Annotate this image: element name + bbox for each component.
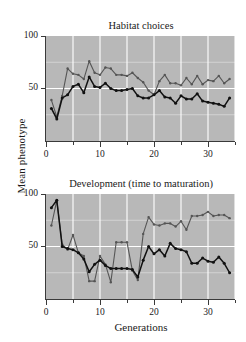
x-tick-30-bottom	[208, 300, 209, 305]
x-tick-20-bottom	[154, 300, 155, 305]
plot-area-top	[46, 36, 235, 141]
x-tick-35-top	[235, 142, 236, 145]
x-tick-label-10-bottom: 10	[90, 307, 110, 317]
x-tick-20-top	[154, 142, 155, 147]
x-tick-label-20-top: 20	[144, 149, 164, 159]
chart-canvas-top	[46, 36, 235, 141]
x-tick-label-30-top: 30	[198, 149, 218, 159]
x-tick-25-top	[181, 142, 182, 145]
y-axis-line-bottom	[45, 194, 46, 300]
x-tick-0-top	[46, 142, 47, 147]
y-tick-100-bottom	[41, 194, 46, 195]
y-tick-100-top	[41, 36, 46, 37]
x-tick-10-bottom	[100, 300, 101, 305]
x-tick-25-bottom	[181, 300, 182, 303]
x-tick-label-0-top: 0	[36, 149, 56, 159]
y-tick-label-100-top: 100	[8, 30, 38, 40]
x-tick-label-30-bottom: 30	[198, 307, 218, 317]
panel-development: Development (time to maturation) 100 50 …	[0, 171, 246, 342]
plot-area-bottom	[46, 194, 235, 299]
figure: Mean phenotype Habitat choices 100 50 0 …	[0, 0, 246, 342]
x-tick-15-top	[127, 142, 128, 145]
x-tick-5-bottom	[73, 300, 74, 303]
chart-title-bottom: Development (time to maturation)	[46, 178, 236, 189]
x-tick-15-bottom	[127, 300, 128, 303]
y-tick-label-100-bottom: 100	[8, 188, 38, 198]
x-tick-label-0-bottom: 0	[36, 307, 56, 317]
x-tick-30-top	[208, 142, 209, 147]
x-tick-5-top	[73, 142, 74, 145]
x-tick-35-bottom	[235, 300, 236, 303]
x-tick-label-10-top: 10	[90, 149, 110, 159]
y-tick-50-top	[41, 88, 46, 89]
x-tick-label-20-bottom: 20	[144, 307, 164, 317]
y-tick-label-50-bottom: 50	[8, 240, 38, 250]
panel-habitat-choices: Habitat choices 100 50 0 10 20 30	[0, 0, 246, 171]
chart-canvas-bottom	[46, 194, 235, 299]
x-tick-10-top	[100, 142, 101, 147]
y-axis-line-top	[45, 36, 46, 142]
x-tick-0-bottom	[46, 300, 47, 305]
y-tick-label-50-top: 50	[8, 82, 38, 92]
x-axis-label: Generations	[46, 321, 236, 333]
chart-title-top: Habitat choices	[46, 20, 236, 31]
y-tick-50-bottom	[41, 246, 46, 247]
